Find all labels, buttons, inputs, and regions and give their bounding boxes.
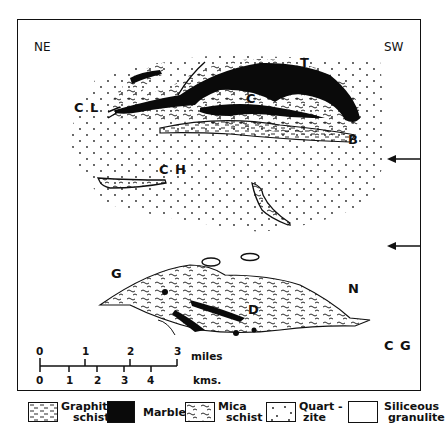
siliceous-granulite-swatch	[348, 401, 378, 423]
orientation-ne: NE	[34, 41, 51, 53]
label-t: T	[300, 56, 310, 69]
label-g: G	[111, 267, 123, 280]
legend-item-marble: Marble	[107, 401, 186, 423]
legend: Graphite schist Marble Mica schist Quart…	[20, 398, 441, 428]
label-cg: C G	[384, 339, 412, 352]
label-b: B	[348, 133, 359, 146]
label-n: N	[348, 282, 360, 295]
legend-item-quartzite: Quart - zite	[266, 401, 343, 423]
quartzite-swatch	[266, 402, 296, 422]
legend-label-line2: zite	[299, 412, 343, 423]
scale-miles-unit: miles	[191, 351, 223, 362]
scale-mile-2: 2	[127, 346, 134, 357]
scale-km-3: 3	[121, 375, 128, 386]
scale-km-1: 1	[66, 375, 73, 386]
legend-label-line2: granulite	[384, 412, 445, 423]
map-frame	[17, 19, 421, 391]
label-c: C	[246, 92, 257, 105]
marble-swatch	[107, 401, 135, 423]
legend-label-line2: schist	[218, 412, 262, 423]
legend-item-graphite-schist: Graphite schist	[28, 401, 115, 423]
graphite-schist-swatch	[28, 402, 58, 422]
scale-km-unit: kms.	[193, 375, 221, 386]
legend-label-line1: Marble	[143, 407, 186, 418]
scale-km-0: 0	[36, 375, 43, 386]
legend-item-siliceous-granulite: Siliceous granulite	[348, 401, 445, 423]
scale-km-4: 4	[147, 375, 154, 386]
label-cl: C L	[74, 101, 99, 114]
mica-schist-swatch	[185, 402, 215, 422]
scale-mile-0: 0	[36, 346, 43, 357]
legend-item-mica-schist: Mica schist	[185, 401, 262, 423]
scale-mile-1: 1	[82, 346, 89, 357]
scale-mile-3: 3	[174, 346, 181, 357]
label-d: D	[248, 303, 260, 316]
scale-km-2: 2	[94, 375, 101, 386]
label-ch: C H	[159, 163, 187, 176]
orientation-sw: SW	[384, 41, 403, 53]
